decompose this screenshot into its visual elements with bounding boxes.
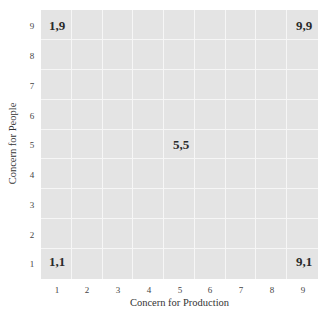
y-tick-9: 9 xyxy=(26,21,38,31)
x-tick-8: 8 xyxy=(262,285,282,295)
grid-cell xyxy=(287,70,318,100)
grid-cell xyxy=(164,159,195,189)
grid-cell xyxy=(41,70,72,100)
y-tick-2: 2 xyxy=(26,230,38,240)
y-tick-7: 7 xyxy=(26,81,38,91)
grid-cell xyxy=(133,40,164,70)
grid-cell xyxy=(256,10,287,40)
grid-cell xyxy=(103,10,134,40)
grid-cell xyxy=(72,100,103,130)
grid-cell xyxy=(72,130,103,160)
x-tick-2: 2 xyxy=(77,285,97,295)
grid-cell xyxy=(256,159,287,189)
grid-cell xyxy=(256,189,287,219)
y-tick-6: 6 xyxy=(26,111,38,121)
grid-cell xyxy=(41,219,72,249)
grid-cell xyxy=(103,249,134,279)
grid-cell xyxy=(41,189,72,219)
point-label-5-5: 5,5 xyxy=(173,137,189,153)
grid-cell xyxy=(164,100,195,130)
grid-cell xyxy=(41,100,72,130)
grid-cell xyxy=(164,249,195,279)
grid-cell xyxy=(195,219,226,249)
grid-cell xyxy=(133,10,164,40)
grid-cell xyxy=(287,130,318,160)
grid-cell xyxy=(256,70,287,100)
point-label-9-1: 9,1 xyxy=(296,254,312,270)
grid-cell xyxy=(103,40,134,70)
grid-cell xyxy=(226,130,257,160)
grid-cell xyxy=(103,219,134,249)
grid-cell xyxy=(133,100,164,130)
y-tick-5: 5 xyxy=(26,140,38,150)
grid-cell xyxy=(103,130,134,160)
grid-cell xyxy=(195,100,226,130)
grid-cell xyxy=(226,40,257,70)
grid-cell xyxy=(72,219,103,249)
grid-cell xyxy=(103,159,134,189)
y-tick-3: 3 xyxy=(26,200,38,210)
grid-cell xyxy=(72,70,103,100)
x-tick-9: 9 xyxy=(293,285,313,295)
grid-cell xyxy=(256,100,287,130)
x-tick-1: 1 xyxy=(47,285,67,295)
grid-cell xyxy=(41,130,72,160)
grid-cell xyxy=(133,159,164,189)
grid-cell xyxy=(226,189,257,219)
grid-cell xyxy=(133,249,164,279)
grid-cell xyxy=(72,189,103,219)
grid-cell xyxy=(195,70,226,100)
x-tick-5: 5 xyxy=(170,285,190,295)
grid-cell xyxy=(256,219,287,249)
grid-cell xyxy=(195,40,226,70)
point-label-9-9: 9,9 xyxy=(296,18,312,34)
x-tick-6: 6 xyxy=(200,285,220,295)
grid-cell xyxy=(41,159,72,189)
grid-cell xyxy=(72,249,103,279)
grid-cell xyxy=(164,40,195,70)
grid-cell xyxy=(256,130,287,160)
y-tick-4: 4 xyxy=(26,170,38,180)
grid-cell xyxy=(133,189,164,219)
grid-cell xyxy=(164,189,195,219)
grid-cell xyxy=(226,219,257,249)
grid-cell xyxy=(41,40,72,70)
grid-cell xyxy=(226,70,257,100)
grid-cell xyxy=(133,219,164,249)
x-tick-7: 7 xyxy=(231,285,251,295)
grid-cell xyxy=(287,40,318,70)
grid-cell xyxy=(133,70,164,100)
grid-cell xyxy=(72,10,103,40)
y-tick-8: 8 xyxy=(26,51,38,61)
grid-cell xyxy=(287,189,318,219)
point-label-1-1: 1,1 xyxy=(49,254,65,270)
grid-cell xyxy=(133,130,164,160)
grid-cell xyxy=(287,100,318,130)
grid-cell xyxy=(72,40,103,70)
grid-cell xyxy=(164,70,195,100)
grid-cell xyxy=(164,219,195,249)
x-tick-3: 3 xyxy=(108,285,128,295)
grid-cell xyxy=(195,249,226,279)
grid-cell xyxy=(226,10,257,40)
grid-cell xyxy=(72,159,103,189)
grid-cell xyxy=(164,10,195,40)
y-tick-1: 1 xyxy=(26,259,38,269)
grid-cell xyxy=(195,159,226,189)
grid-cell xyxy=(103,100,134,130)
grid-cell xyxy=(256,249,287,279)
grid-cell xyxy=(287,219,318,249)
grid-cell xyxy=(195,10,226,40)
grid-cell xyxy=(226,100,257,130)
x-tick-4: 4 xyxy=(139,285,159,295)
grid-cell xyxy=(195,130,226,160)
grid-cell xyxy=(287,159,318,189)
grid-cell xyxy=(103,189,134,219)
y-axis-label: Concern for People xyxy=(7,84,18,204)
grid-cell xyxy=(256,40,287,70)
grid-cell xyxy=(226,159,257,189)
point-label-1-9: 1,9 xyxy=(49,18,65,34)
grid-cell xyxy=(195,189,226,219)
grid-cell xyxy=(103,70,134,100)
grid-cell xyxy=(226,249,257,279)
